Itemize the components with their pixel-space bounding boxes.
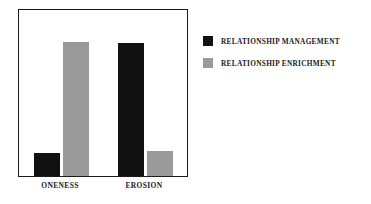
legend-label-1: RELATIONSHIP ENRICHMENT xyxy=(221,59,336,68)
legend-item-0: RELATIONSHIP MANAGEMENT xyxy=(203,30,368,52)
bar-oneness-series-0 xyxy=(34,153,60,176)
bar-erosion-series-0 xyxy=(118,43,144,176)
plot-area xyxy=(19,10,187,176)
plot-frame xyxy=(18,9,188,177)
x-tick-label-erosion: EROSION xyxy=(102,181,186,190)
x-tick-label-oneness: ONENESS xyxy=(18,181,102,190)
black-swatch-icon xyxy=(203,36,213,46)
gray-swatch-icon xyxy=(203,58,213,68)
bar-erosion-series-1 xyxy=(147,151,173,176)
bar-chart-figure: ONENESSEROSION RELATIONSHIP MANAGEMENTRE… xyxy=(0,0,371,204)
legend: RELATIONSHIP MANAGEMENTRELATIONSHIP ENRI… xyxy=(203,30,368,74)
legend-label-0: RELATIONSHIP MANAGEMENT xyxy=(221,37,340,46)
bar-oneness-series-1 xyxy=(63,42,89,176)
legend-item-1: RELATIONSHIP ENRICHMENT xyxy=(203,52,368,74)
